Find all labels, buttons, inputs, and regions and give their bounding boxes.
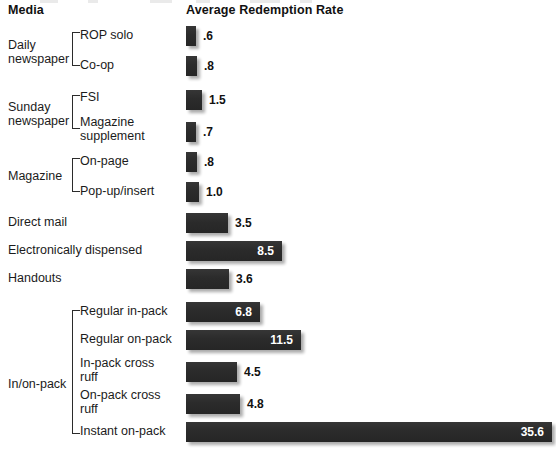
bar-co-op [186,56,197,76]
bar-on-page [186,152,197,172]
bar-handouts [186,269,229,289]
row-label-in-pack-cross-ruff: In-pack cross ruff [80,356,154,384]
value-label-handouts: 3.6 [236,269,253,289]
row-label-handouts: Handouts [8,271,62,285]
value-label-electronically-dispensed: 8.5 [257,241,274,261]
value-label-direct-mail: 3.5 [235,213,252,233]
bar-pop-up-insert [186,182,199,202]
column-header-average-redemption-rate: Average Redemption Rate [186,3,343,17]
row-label-co-op: Co-op [80,58,114,72]
row-label-direct-mail: Direct mail [8,215,67,229]
value-label-rop-solo: .6 [203,26,213,46]
group-label-in-on-pack: In/on-pack [8,377,66,391]
bar-in-pack-cross-ruff [186,362,237,382]
bar-fsi [186,90,202,110]
row-label-magazine-supplement: Magazine supplement [80,115,145,143]
bar-on-pack-cross-ruff [186,394,240,414]
value-label-magazine-supplement: .7 [203,122,213,142]
value-label-instant-on-pack: 35.6 [521,422,544,442]
value-label-regular-in-pack: 6.8 [235,302,252,322]
chart-container: Media Average Redemption Rate Daily news… [0,0,556,459]
column-header-media: Media [8,3,44,17]
value-label-co-op: .8 [204,56,214,76]
row-label-on-pack-cross-ruff: On-pack cross ruff [80,388,161,416]
row-label-instant-on-pack: Instant on-pack [80,424,165,438]
row-label-regular-on-pack: Regular on-pack [80,332,172,346]
row-label-on-page: On-page [80,154,129,168]
group-label-daily-newspaper: Daily newspaper [8,38,69,66]
group-label-sunday-newspaper: Sunday newspaper [8,100,69,128]
bar-direct-mail [186,213,228,233]
value-label-on-page: .8 [204,152,214,172]
row-label-rop-solo: ROP solo [80,28,133,42]
group-label-magazine: Magazine [8,169,62,183]
row-label-electronically-dispensed: Electronically dispensed [8,243,142,257]
bar-instant-on-pack [186,422,552,442]
value-label-regular-on-pack: 11.5 [270,330,293,350]
row-label-pop-up-insert: Pop-up/insert [80,184,154,198]
value-label-in-pack-cross-ruff: 4.5 [244,362,261,382]
row-label-regular-in-pack: Regular in-pack [80,304,168,318]
value-label-pop-up-insert: 1.0 [206,182,223,202]
value-label-on-pack-cross-ruff: 4.8 [247,394,264,414]
row-label-fsi: FSI [80,90,99,104]
bar-rop-solo [186,26,196,46]
bar-magazine-supplement [186,122,196,142]
value-label-fsi: 1.5 [209,90,226,110]
